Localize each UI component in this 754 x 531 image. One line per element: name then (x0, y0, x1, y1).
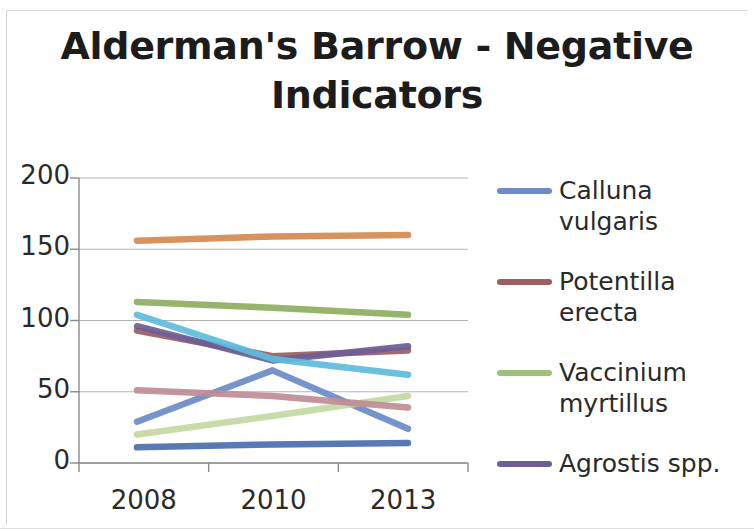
x-axis-tick-label: 2010 (219, 485, 329, 515)
legend-item[interactable]: Agrostis spp. (497, 449, 749, 480)
y-axis-tick-label: 0 (0, 445, 70, 475)
legend-color-swatch (497, 279, 552, 285)
y-axis-tick-label: 200 (0, 160, 70, 190)
legend-item-label: Calluna vulgaris (559, 176, 749, 237)
series-line (137, 302, 408, 315)
chart-legend: Calluna vulgarisPotentilla erectaVaccini… (497, 176, 749, 510)
series-lines (137, 235, 408, 447)
legend-color-swatch (497, 188, 552, 194)
legend-color-swatch (497, 461, 552, 467)
chart-figure: Alderman's Barrow - Negative Indicators … (0, 0, 754, 531)
y-axis-tick-label: 150 (0, 231, 70, 261)
y-axis-tick-label: 100 (0, 303, 70, 333)
legend-item[interactable]: Potentilla erecta (497, 267, 749, 328)
legend-color-swatch (497, 370, 552, 376)
legend-item[interactable]: Calluna vulgaris (497, 176, 749, 237)
legend-item-label: Agrostis spp. (559, 449, 720, 480)
series-line (137, 315, 408, 375)
legend-item-label: Potentilla erecta (559, 267, 749, 328)
y-axis-tick-label: 50 (0, 374, 70, 404)
legend-item[interactable]: Vaccinium myrtillus (497, 358, 749, 419)
x-axis-tick-label: 2013 (348, 485, 458, 515)
legend-item-label: Vaccinium myrtillus (559, 358, 749, 419)
series-line (137, 443, 408, 447)
x-axis-tick-label: 2008 (89, 485, 199, 515)
series-line (137, 235, 408, 241)
